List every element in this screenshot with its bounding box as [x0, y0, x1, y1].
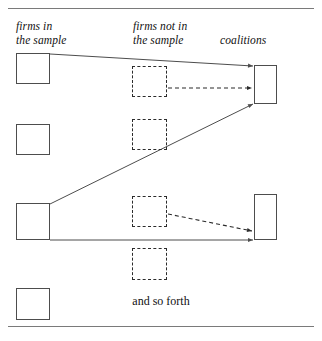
node-nonfirm-4: [132, 248, 167, 280]
node-nonfirm-1: [132, 66, 167, 97]
caption-and-so-forth: and so forth: [0, 294, 322, 309]
bottom-rule: [8, 326, 314, 327]
node-nonfirm-3: [132, 196, 167, 227]
node-coalition-2: [254, 194, 277, 240]
node-coalition-1: [254, 65, 277, 104]
node-nonfirm-2: [132, 119, 167, 150]
link-nonfirm1-coalition1-arrowhead: [247, 86, 252, 90]
node-firm-3: [16, 203, 50, 240]
link-nonfirm3-coalition2-arrowhead: [247, 228, 252, 232]
link-firm3-coalition2-arrowhead: [248, 238, 253, 242]
link-firm1-coalition1: [50, 54, 253, 66]
node-firm-2: [16, 124, 50, 155]
coalitions-diagram: firms in the sample firms not in the sam…: [0, 0, 322, 341]
node-firm-1: [16, 53, 50, 84]
link-firm1-coalition1-arrowhead: [248, 64, 253, 68]
link-nonfirm3-coalition2: [168, 214, 252, 231]
